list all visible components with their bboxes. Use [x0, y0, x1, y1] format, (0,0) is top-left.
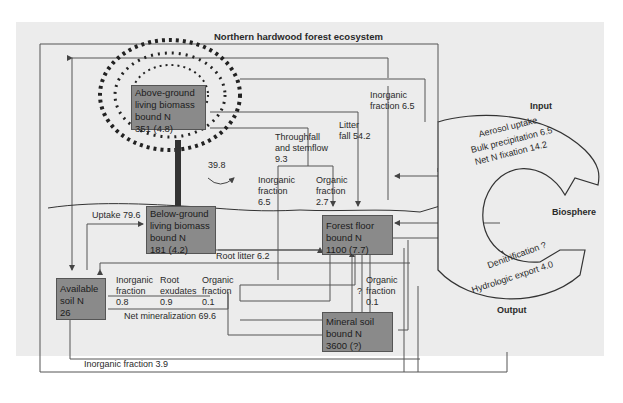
flow-text: Organic [366, 275, 398, 286]
pool-label: living biomass [135, 99, 202, 111]
pool-value: 26 [60, 307, 102, 319]
flow-lines [0, 0, 623, 403]
flow-label-inorganic-top: Inorganic fraction 6.5 [370, 90, 415, 112]
flow-text: 2.7 [316, 197, 348, 208]
flow-text: 6.5 [258, 197, 295, 208]
flow-text: fraction [366, 286, 398, 297]
flow-text: and stemflow [275, 143, 328, 154]
pool-label: bound N [150, 232, 212, 244]
pool-label: Mineral soil [326, 316, 389, 328]
pool-available-soil: Available soil N 26 [56, 278, 106, 320]
flow-label-unknown: ? [357, 286, 362, 297]
flow-text: 0.1 [202, 297, 234, 308]
flow-text: exudates [160, 286, 197, 297]
flow-text: fall 54.2 [339, 131, 371, 142]
flow-label-root-litter: Root litter 6.2 [216, 251, 270, 262]
flow-text: Organic [316, 175, 348, 186]
pool-label: bound N [326, 232, 389, 244]
flow-label-tf-organic: Organic fraction 2.7 [316, 175, 348, 208]
flow-text: Inorganic [370, 90, 415, 101]
flow-text: 0.8 [116, 297, 153, 308]
flow-line [198, 230, 320, 250]
flow-label-litter-fall: Litter fall 54.2 [339, 120, 371, 142]
pool-label: bound N [326, 328, 389, 340]
flow-label-inorganic-bottom: Inorganic fraction 3.9 [84, 359, 168, 370]
flow-label-re-inorganic: Inorganic fraction 0.8 [116, 275, 153, 308]
flow-text: fraction 6.5 [370, 101, 415, 112]
flow-text: 0.1 [366, 297, 398, 308]
flow-text: Root [160, 275, 197, 286]
pool-above-ground-biomass: Above-ground living biomass bound N 351 … [131, 85, 206, 130]
flow-text: 0.9 [160, 297, 197, 308]
diagram-title: Northern hardwood forest ecosystem [214, 31, 383, 42]
flow-text: fraction [258, 186, 295, 197]
flow-label-ff-organic: Organic fraction 0.1 [366, 275, 398, 308]
flow-label-re-organic: Organic fraction 0.1 [202, 275, 234, 308]
flow-label-uptake: Uptake 79.6 [92, 210, 141, 221]
pool-value: 181 (4.2) [150, 244, 212, 256]
pool-value: 351 (4.8) [135, 123, 202, 135]
internal-cycle-arrow [208, 178, 234, 184]
pool-forest-floor: Forest floor bound N 1100 (7.7) [322, 215, 393, 255]
pool-label: Available [60, 283, 102, 295]
flow-text: 9.3 [275, 154, 328, 165]
output-label: Output [497, 305, 527, 316]
flow-text: Litter [339, 120, 371, 131]
biosphere-label: Biosphere [552, 207, 596, 218]
flow-line [398, 240, 408, 330]
flow-label-throughfall: Throughfall and stemflow 9.3 [275, 132, 328, 165]
flow-text: fraction [202, 286, 234, 297]
flow-line [100, 263, 410, 270]
flow-label-root-exudates: Root exudates 0.9 [160, 275, 197, 308]
flow-text: fraction [116, 286, 153, 297]
flow-text: Throughfall [275, 132, 328, 143]
pool-label: Above-ground [135, 87, 202, 99]
pool-label: Forest floor [326, 220, 389, 232]
flow-label-internal-cycle: 39.8 [208, 160, 226, 171]
flow-text: Inorganic [116, 275, 153, 286]
pool-below-ground-biomass: Below-ground living biomass bound N 181 … [146, 206, 216, 254]
flow-line [72, 58, 388, 78]
flow-label-tf-inorganic: Inorganic fraction 6.5 [258, 175, 295, 208]
flow-text: Inorganic [258, 175, 295, 186]
pool-mineral-soil: Mineral soil bound N 3600 (?) [322, 312, 393, 352]
flow-text: Organic [202, 275, 234, 286]
ecosystem-boundary [40, 44, 507, 372]
pool-label: living biomass [150, 220, 212, 232]
flow-text: fraction [316, 186, 348, 197]
pool-label: soil N [60, 295, 102, 307]
pool-value: 1100 (7.7) [326, 244, 389, 256]
input-label: Input [530, 101, 552, 112]
flow-label-net-mineralization: Net mineralization 69.6 [124, 311, 216, 322]
pool-label: Below-ground [150, 208, 212, 220]
pool-label: bound N [135, 111, 202, 123]
pool-value: 3600 (?) [326, 340, 389, 352]
